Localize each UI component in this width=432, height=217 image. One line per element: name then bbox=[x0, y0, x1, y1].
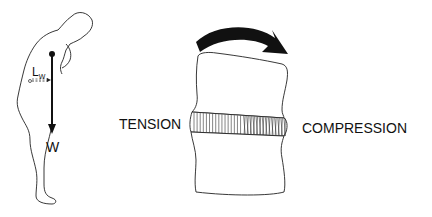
lever-arm-label: LW bbox=[32, 66, 45, 80]
lower-vertebra bbox=[191, 132, 285, 195]
compression-label: COMPRESSION bbox=[302, 121, 407, 135]
weight-label: W bbox=[46, 140, 59, 154]
person-outline bbox=[17, 13, 92, 204]
person-arm bbox=[62, 44, 71, 68]
upper-vertebra bbox=[192, 52, 287, 118]
moment-arrow-icon bbox=[196, 27, 288, 54]
lever-arm-subscript: W bbox=[39, 73, 46, 80]
weight-vector-arrowhead bbox=[48, 124, 56, 134]
lever-arm-letter: L bbox=[32, 65, 39, 79]
diagram-canvas bbox=[0, 0, 432, 217]
tension-label: TENSION bbox=[119, 117, 181, 131]
lever-arm-arrowhead bbox=[47, 78, 51, 82]
